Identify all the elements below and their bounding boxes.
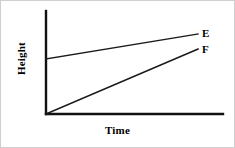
series-label-f: F [202, 44, 209, 55]
x-axis-label: Time [105, 125, 130, 136]
y-axis-label: Height [16, 29, 27, 89]
series-line-e [46, 34, 198, 59]
series-label-e: E [202, 28, 209, 39]
line-chart-figure: Height Time E F [0, 0, 235, 148]
series-line-f [46, 49, 198, 114]
